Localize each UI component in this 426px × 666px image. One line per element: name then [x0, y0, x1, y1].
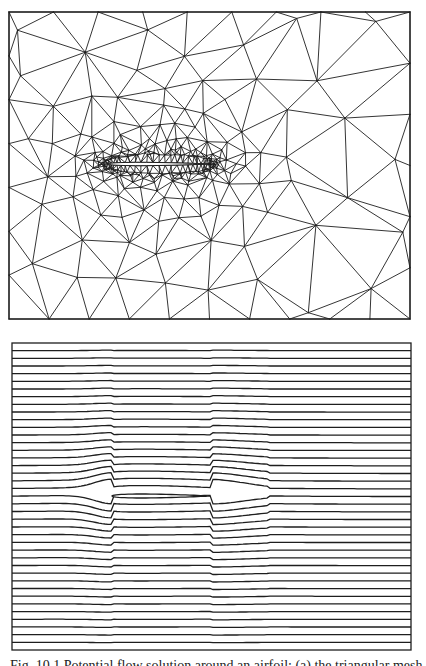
- streamline: [12, 495, 411, 504]
- streamline: [12, 542, 411, 545]
- streamline: [12, 527, 411, 532]
- streamline: [12, 604, 411, 605]
- streamline: [12, 433, 411, 435]
- streamline: [12, 388, 411, 389]
- streamline: [12, 358, 411, 359]
- airfoil-shape: [108, 162, 210, 165]
- streamline: [12, 425, 411, 427]
- streamline-plot: [0, 334, 426, 656]
- streamline: [12, 619, 411, 620]
- streamline: [12, 573, 411, 574]
- streamline: [12, 589, 411, 590]
- streamline: [12, 511, 411, 518]
- streamline: [12, 635, 411, 636]
- streamline: [12, 411, 411, 413]
- streamline: [12, 558, 411, 560]
- streamline: [12, 350, 411, 351]
- triangular-mesh-plot: [0, 0, 426, 330]
- streamline: [12, 373, 411, 374]
- figure-caption: Fig. 10.1 Potential flow solution around…: [10, 657, 420, 666]
- streamline: [12, 503, 411, 511]
- streamline: [12, 565, 411, 567]
- streamline: [12, 440, 411, 443]
- streamline: [12, 467, 411, 474]
- streamline: [12, 627, 411, 628]
- streamline: [12, 519, 411, 525]
- streamline: [12, 418, 411, 420]
- streamline: [12, 365, 411, 366]
- streamline: [12, 396, 411, 397]
- streamline-panel: [0, 334, 426, 656]
- streamline: [12, 550, 411, 552]
- airfoil-shape: [112, 494, 210, 498]
- streamline: [12, 581, 411, 582]
- streamlines: [12, 350, 411, 643]
- streamline: [12, 460, 411, 466]
- streamline: [12, 447, 411, 451]
- streamline: [12, 454, 411, 459]
- streamline: [12, 403, 411, 404]
- mesh-panel: [0, 0, 426, 330]
- mesh-edges: [9, 12, 410, 319]
- streamline: [12, 534, 411, 538]
- streamline: [12, 612, 411, 613]
- streamline: [12, 596, 411, 597]
- streamline: [12, 381, 411, 382]
